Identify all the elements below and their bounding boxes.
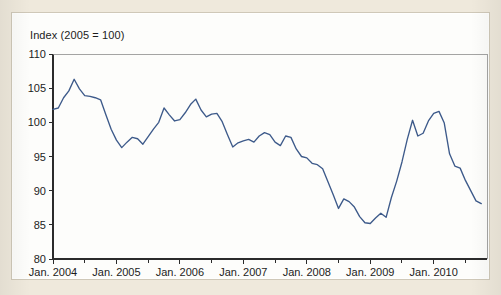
x-tick-label: Jan. 2004 xyxy=(29,266,77,278)
x-tick-label: Jan. 2006 xyxy=(156,266,204,278)
x-tick-label: Jan. 2008 xyxy=(283,266,331,278)
y-tick-label: 85 xyxy=(34,219,46,231)
y-tick-label: 110 xyxy=(28,48,46,60)
data-series-line xyxy=(53,79,481,223)
y-tick-label: 95 xyxy=(34,151,46,163)
y-tick-label: 80 xyxy=(34,253,46,265)
axis-lines xyxy=(49,54,487,264)
figure-plate: Index (2005 = 100) 80859095100105110 Jan… xyxy=(11,12,490,280)
figure-outer-frame: Index (2005 = 100) 80859095100105110 Jan… xyxy=(0,0,501,295)
y-tick-label: 90 xyxy=(34,185,46,197)
x-axis-tick-labels: Jan. 2004Jan. 2005Jan. 2006Jan. 2007Jan.… xyxy=(29,266,458,278)
data-series-group xyxy=(53,79,481,223)
y-tick-label: 105 xyxy=(28,82,46,94)
x-tick-label: Jan. 2010 xyxy=(410,266,458,278)
x-tick-label: Jan. 2005 xyxy=(92,266,140,278)
x-tick-label: Jan. 2009 xyxy=(346,266,394,278)
line-chart-plot: 80859095100105110 Jan. 2004Jan. 2005Jan.… xyxy=(12,13,491,281)
y-axis-tick-labels: 80859095100105110 xyxy=(28,48,46,265)
x-tick-label: Jan. 2007 xyxy=(219,266,267,278)
y-tick-label: 100 xyxy=(28,116,46,128)
